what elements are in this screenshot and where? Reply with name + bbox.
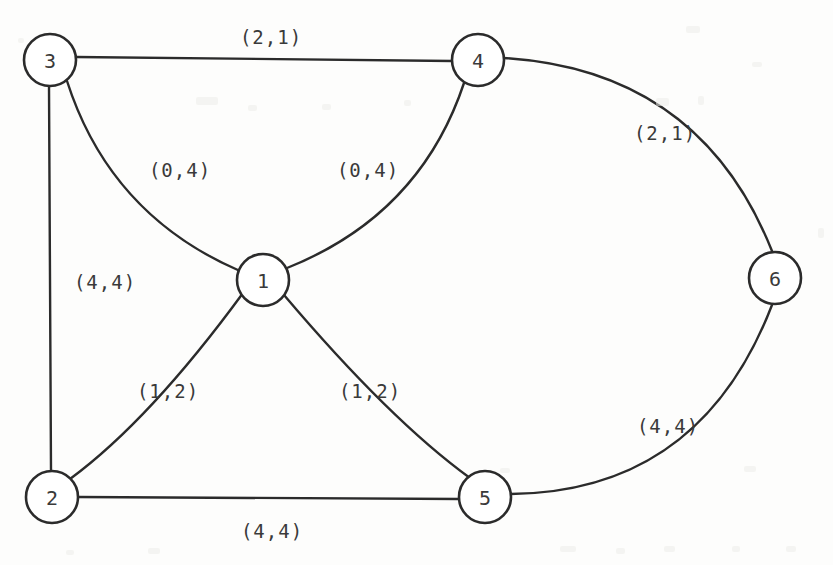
graph-edge-3-4 — [76, 57, 452, 61]
graph-node-3: 3 — [24, 34, 76, 86]
edge-label-3-4: (2,1) — [240, 26, 302, 48]
edge-label-3-2: (4,4) — [74, 271, 136, 293]
node-label-6: 6 — [769, 267, 781, 291]
node-label-5: 5 — [479, 486, 491, 510]
edge-label-3-1: (0,4) — [149, 159, 211, 181]
graph-node-1: 1 — [237, 254, 289, 306]
node-label-3: 3 — [44, 49, 56, 73]
graph-figure: 123456 (2,1)(0,4)(0,4)(4,4)(1,2)(1,2)(4,… — [0, 0, 833, 565]
edge-label-5-6: (4,4) — [637, 415, 699, 437]
edge-label-2-1: (1,2) — [137, 380, 199, 402]
graph-canvas: 123456 (2,1)(0,4)(0,4)(4,4)(1,2)(1,2)(4,… — [0, 0, 833, 565]
graph-node-2: 2 — [26, 471, 78, 523]
node-label-2: 2 — [46, 486, 58, 510]
graph-edge-3-2 — [49, 86, 51, 471]
graph-node-5: 5 — [459, 471, 511, 523]
edge-label-2-5: (4,4) — [241, 520, 303, 542]
graph-edge-5-6 — [511, 305, 772, 494]
graph-edge-4-6 — [504, 58, 772, 251]
edge-label-4-6: (2,1) — [634, 122, 696, 144]
graph-edge-2-5 — [78, 497, 459, 499]
node-label-4: 4 — [472, 49, 484, 73]
edge-labels-layer: (2,1)(0,4)(0,4)(4,4)(1,2)(1,2)(4,4)(2,1)… — [74, 26, 699, 542]
edge-label-1-5: (1,2) — [339, 380, 401, 402]
graph-node-6: 6 — [749, 252, 801, 304]
edge-label-1-4: (0,4) — [337, 159, 399, 181]
nodes-layer: 123456 — [24, 34, 801, 523]
graph-node-4: 4 — [452, 34, 504, 86]
node-label-1: 1 — [257, 269, 269, 293]
